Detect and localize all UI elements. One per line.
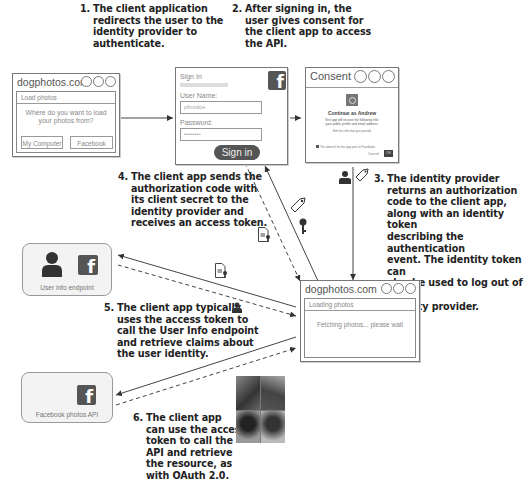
- user-info-endpoint-card: f User info endpoint: [22, 243, 112, 296]
- facebook-logo-icon: f: [268, 71, 286, 90]
- facebook-logo-icon: f: [78, 255, 98, 275]
- window-title: dogphotos.com: [305, 283, 377, 295]
- loading-content: Loading photos Fetching photos... please…: [304, 298, 416, 358]
- signin-heading: Sign In: [180, 73, 202, 80]
- client-app-window: dogphotos.com Load photos Where do you w…: [12, 73, 120, 157]
- user-icon: [42, 251, 62, 277]
- window-controls: [354, 70, 395, 83]
- card-label: User info endpoint: [23, 284, 111, 291]
- window-controls: [381, 283, 416, 294]
- window-control-icon[interactable]: [382, 70, 395, 83]
- cancel-link[interactable]: Cancel: [368, 152, 379, 156]
- subtitle: Load photos: [17, 92, 115, 104]
- window-controls: [81, 76, 116, 87]
- edit-info-link[interactable]: Edit this info that you provide: [306, 129, 398, 133]
- window-title: dogphotos.com: [17, 76, 89, 88]
- card-label: Facebook photos API: [22, 411, 112, 418]
- window-control-icon[interactable]: [354, 70, 367, 83]
- facebook-button[interactable]: Facebook: [70, 136, 113, 149]
- username-field[interactable]: pfrnidce: [180, 101, 262, 114]
- password-field[interactable]: ••••••••: [180, 128, 262, 141]
- authorization-code-tag-icon: [355, 168, 369, 182]
- checkbox-icon[interactable]: [316, 145, 319, 148]
- facebook-photos-api-card: f Facebook photos API: [21, 372, 113, 423]
- window-control-icon[interactable]: [368, 70, 381, 83]
- facebook-logo-icon: f: [77, 385, 96, 405]
- window-control-icon[interactable]: [393, 283, 404, 294]
- access-token-document-icon: [215, 263, 228, 278]
- ok-button[interactable]: OK: [384, 150, 393, 157]
- consent-title: Consent: [310, 70, 351, 82]
- my-computer-button[interactable]: My Computer: [21, 136, 63, 149]
- arrow-userinfo-call: [118, 255, 296, 307]
- step-1-text: 1. The client applicationredirects the u…: [93, 3, 223, 49]
- step-2-text: 2. After signing in, theuser gives conse…: [245, 3, 371, 49]
- user-identity-icon: [339, 170, 351, 184]
- client-secret-key-icon: [299, 218, 307, 234]
- step-4-text: 4. The client app sends theauthorization…: [131, 171, 267, 229]
- window-control-icon[interactable]: [381, 283, 392, 294]
- dog-photos-image: [236, 376, 285, 443]
- consent-description: Test app will receive the following info…: [312, 118, 392, 126]
- prompt-text: Where do you want to load your photos fr…: [17, 109, 115, 125]
- authorization-code-tag-icon: [290, 197, 306, 213]
- signin-subtitle-placeholder: [180, 83, 228, 87]
- window-control-icon[interactable]: [105, 76, 116, 87]
- signin-window: Sign In f User Name: pfrnidce Password: …: [175, 67, 288, 165]
- continue-as-text: Continue as Andrew: [306, 110, 398, 116]
- app-gear-icon: [346, 94, 358, 106]
- window-control-icon[interactable]: [405, 283, 416, 294]
- subtitle: Loading photos: [305, 299, 415, 311]
- user-claims-icon: [232, 302, 242, 313]
- window-control-icon[interactable]: [81, 76, 92, 87]
- consent-window: Consent Continue as Andrew Test app will…: [305, 67, 399, 163]
- username-label: User Name:: [180, 92, 217, 99]
- password-label: Password:: [180, 119, 213, 126]
- divider: [306, 87, 398, 88]
- signin-button[interactable]: Sign in: [214, 145, 260, 160]
- client-app-content: Load photos Where do you want to load yo…: [16, 91, 116, 153]
- consent-checkbox-text[interactable]: This doesn't let the app post to Faceboo…: [316, 145, 376, 149]
- loading-message: Fetching photos... please wait: [305, 321, 415, 328]
- access-token-document-icon: [258, 227, 271, 242]
- client-app-loading-window: dogphotos.com Loading photos Fetching ph…: [300, 280, 420, 362]
- window-control-icon[interactable]: [93, 76, 104, 87]
- step-6-text: 6. The client appcan use the accesstoken…: [146, 412, 246, 482]
